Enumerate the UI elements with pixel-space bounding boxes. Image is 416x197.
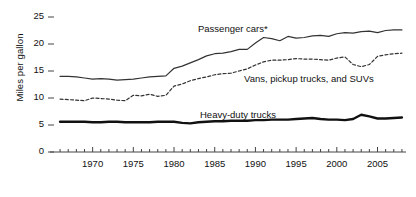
y-axis-tick-label: 10 (20, 91, 44, 102)
x-axis-tick-label: 1980 (154, 158, 194, 169)
x-axis-tick-label: 1970 (73, 158, 113, 169)
x-axis-tick-label: 1995 (276, 158, 316, 169)
x-axis-tick-label: 1985 (195, 158, 235, 169)
y-axis-tick-label: 20 (20, 37, 44, 48)
x-axis-tick-label: 1975 (113, 158, 153, 169)
y-axis-tick-label: 25 (20, 10, 44, 21)
y-axis-tick-label: 0 (20, 145, 44, 156)
y-axis-tick-label: 15 (20, 64, 44, 75)
y-axis-tick-label: 5 (20, 118, 44, 129)
x-axis-tick-label: 1990 (235, 158, 275, 169)
series-annotation-2: Heavy-duty trucks (200, 109, 276, 120)
x-axis-tick-label: 2000 (317, 158, 357, 169)
series-annotation-1: Vans, pickup trucks, and SUVs (244, 73, 374, 84)
mpg-line-chart: Miles per gallon 05101520251970197519801… (0, 0, 416, 197)
x-axis-tick-label: 2005 (358, 158, 398, 169)
series-annotation-0: Passenger cars* (198, 23, 268, 34)
